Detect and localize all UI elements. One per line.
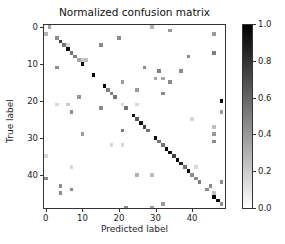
matrix-cell [81,132,85,136]
colorbar-tick-mark [253,24,256,25]
matrix-cell [150,25,154,29]
colorbar [242,24,253,209]
matrix-cell [124,206,128,209]
matrix-cell [44,32,48,36]
matrix-cell [161,92,165,96]
matrix-cell [220,99,224,103]
x-tick-mark [46,209,47,212]
matrix-cell [161,77,165,81]
y-tick-mark [40,175,43,176]
chart-title: Normalized confusion matrix [43,6,226,18]
matrix-cell [55,103,59,107]
matrix-cell [194,165,198,169]
matrix-cell [70,165,74,169]
x-tick-label: 10 [77,213,88,223]
matrix-cell [212,51,216,55]
matrix-cell [59,191,63,195]
matrix-cell [135,173,139,177]
matrix-cell [77,95,81,99]
matrix-cell [99,106,103,110]
matrix-cell [220,202,224,206]
y-tick-label: 0 [33,22,38,32]
matrix-cell [81,62,85,66]
matrix-cell [212,140,216,144]
matrix-cell [212,32,216,36]
x-tick-label: 30 [150,213,161,223]
matrix-cell [99,43,103,47]
matrix-cell [121,80,125,84]
matrix-cell [220,180,224,184]
matrix-cell [121,143,125,147]
matrix-cell [161,202,165,206]
colorbar-tick-label: 0.6 [258,93,272,103]
x-tick-mark [192,209,193,212]
matrix-cell [70,110,74,114]
matrix-cell [44,177,48,181]
y-axis-label: True label [5,91,15,151]
matrix-cell [135,103,139,107]
y-tick-label: 30 [27,133,38,143]
x-tick-mark [156,209,157,212]
x-axis-label: Predicted label [43,224,226,234]
colorbar-tick-label: 0.0 [258,203,272,213]
y-tick-mark [40,101,43,102]
colorbar-tick-label: 1.0 [258,19,272,29]
colorbar-tick-label: 0.4 [258,129,272,139]
y-tick-mark [40,138,43,139]
x-tick-mark [119,209,120,212]
matrix-cell [220,110,224,114]
matrix-cell [113,95,117,99]
matrix-cell [121,129,125,133]
matrix-cell [59,184,63,188]
y-tick-label: 10 [27,59,38,69]
y-tick-mark [40,27,43,28]
matrix-cell [146,129,150,133]
matrix-cell [55,66,59,70]
matrix-cell [70,188,74,192]
matrix-cell [212,132,216,136]
matrix-cell [205,188,209,192]
x-tick-label: 20 [114,213,125,223]
colorbar-tick-mark [253,134,256,135]
colorbar-tick-label: 0.8 [258,56,272,66]
matrix-cell [168,80,172,84]
matrix-cell [66,103,70,107]
matrix-cell [150,206,154,209]
y-tick-label: 40 [27,170,38,180]
matrix-cell [190,117,194,121]
matrix-cell [187,55,191,59]
matrix-cell [124,106,128,110]
matrix-cell [135,88,139,92]
colorbar-tick-mark [253,171,256,172]
y-tick-mark [40,64,43,65]
x-tick-label: 0 [43,213,48,223]
matrix-cell [198,180,202,184]
matrix-cell [179,69,183,73]
matrix-cell [150,173,154,177]
matrix-cell [110,143,114,147]
x-tick-mark [82,209,83,212]
matrix-cell [48,25,52,29]
matrix-cell [84,58,88,62]
matrix-cell [157,69,161,73]
colorbar-tick-mark [253,98,256,99]
matrix-cell [209,184,213,188]
matrix-cell [117,36,121,40]
confusion-matrix-plot [43,24,226,209]
x-tick-label: 40 [187,213,198,223]
colorbar-tick-label: 0.2 [258,166,272,176]
matrix-cell [212,125,216,129]
matrix-cell [44,154,48,158]
y-tick-label: 20 [27,96,38,106]
matrix-cell [168,29,172,33]
matrix-cell [92,73,96,77]
matrix-cell [154,77,158,81]
colorbar-tick-mark [253,208,256,209]
matrix-cell [143,66,147,70]
colorbar-tick-mark [253,61,256,62]
